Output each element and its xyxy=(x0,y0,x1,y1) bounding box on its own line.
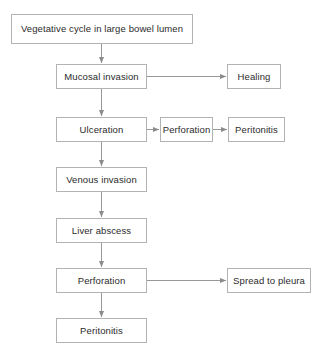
node-label: Venous invasion xyxy=(66,175,137,185)
node-label: Vegetative cycle in large bowel lumen xyxy=(21,24,183,34)
node-label: Perforation xyxy=(163,125,211,135)
flowchart-canvas: Vegetative cycle in large bowel lumen Mu… xyxy=(0,0,325,355)
node-perforation-upper: Perforation xyxy=(160,117,213,142)
node-peritonitis-upper: Peritonitis xyxy=(228,117,285,142)
node-label: Ulceration xyxy=(80,125,124,135)
node-ulceration: Ulceration xyxy=(56,117,147,142)
edge-layer xyxy=(0,0,325,355)
node-venous-invasion: Venous invasion xyxy=(56,167,147,192)
node-label: Mucosal invasion xyxy=(64,72,138,82)
node-mucosal-invasion: Mucosal invasion xyxy=(56,64,147,89)
node-perforation-lower: Perforation xyxy=(56,268,147,293)
node-vegetative-cycle: Vegetative cycle in large bowel lumen xyxy=(11,14,193,44)
node-label: Peritonitis xyxy=(80,326,123,336)
node-label: Spread to pleura xyxy=(233,276,305,286)
node-label: Perforation xyxy=(78,276,126,286)
node-healing: Healing xyxy=(227,64,281,89)
node-peritonitis-lower: Peritonitis xyxy=(56,318,147,343)
node-liver-abscess: Liver abscess xyxy=(56,218,147,243)
node-label: Peritonitis xyxy=(235,125,278,135)
node-label: Liver abscess xyxy=(72,226,131,236)
node-spread-to-pleura: Spread to pleura xyxy=(227,268,311,293)
node-label: Healing xyxy=(238,72,271,82)
